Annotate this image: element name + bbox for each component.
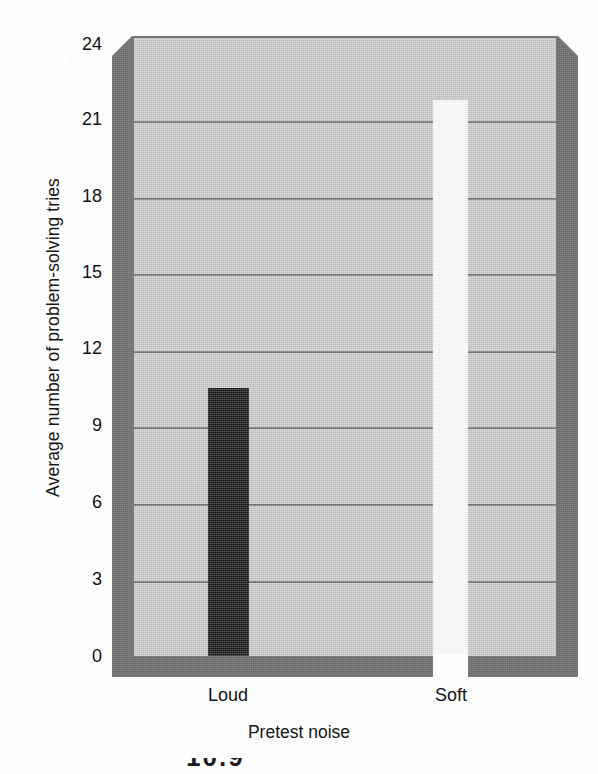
bar-soft <box>433 100 468 656</box>
bar-soft-plinth-overlay <box>433 654 468 677</box>
y-tick-9: 9 <box>46 416 102 434</box>
y-tick-18: 18 <box>46 187 102 205</box>
gridline-12 <box>134 351 556 353</box>
y-tick-15: 15 <box>46 263 102 281</box>
x-axis-title: Pretest noise <box>0 722 598 743</box>
y-axis-tick-labels: 24 21 18 15 12 9 6 3 0 <box>46 0 102 774</box>
clipped-caption: 10.9 <box>0 758 598 774</box>
y-tick-0: 0 <box>46 647 102 665</box>
y-tick-21: 21 <box>46 110 102 128</box>
bar-loud <box>208 388 249 656</box>
gridline-18 <box>134 198 556 200</box>
y-tick-3: 3 <box>46 570 102 588</box>
y-tick-24: 24 <box>46 35 102 53</box>
x-category-loud: Loud <box>168 686 288 704</box>
y-tick-12: 12 <box>46 339 102 357</box>
gridline-21 <box>134 121 556 123</box>
clipped-caption-text: 10.9 <box>186 758 245 773</box>
gridline-3 <box>134 581 556 583</box>
plot-canvas <box>134 38 556 656</box>
gridline-6 <box>134 504 556 506</box>
plot-area <box>112 36 578 677</box>
gridline-15 <box>134 274 556 276</box>
bar-chart-figure: Average number of problem-solving tries … <box>0 0 598 774</box>
gridline-9 <box>134 427 556 429</box>
x-category-soft: Soft <box>391 686 511 704</box>
y-tick-6: 6 <box>46 493 102 511</box>
